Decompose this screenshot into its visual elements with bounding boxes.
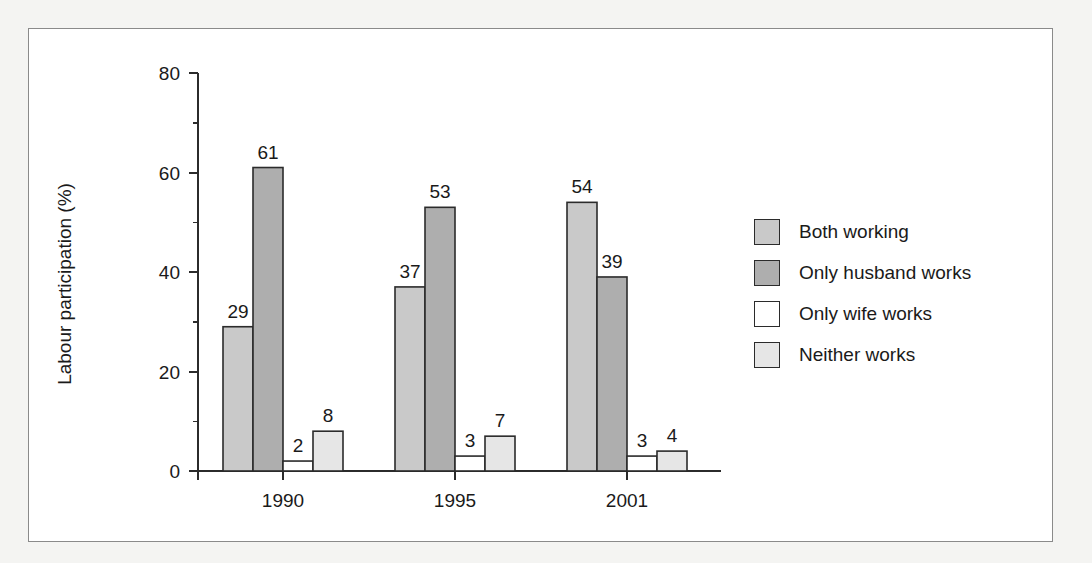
bar [283,461,313,471]
bar [627,456,657,471]
y-tick-labels: 020406080 [159,63,180,482]
bar [657,451,687,471]
bar-value-label: 54 [571,176,593,197]
legend-label: Both working [799,221,909,243]
bar-value-label: 3 [637,430,648,451]
bar-value-label: 7 [495,410,506,431]
x-axis-labels: 199019952001 [262,490,648,511]
bar [313,431,343,471]
chart-frame: Labour participation (%) 020406080 29612… [28,28,1053,542]
bar [485,436,515,471]
legend-item[interactable]: Only wife works [754,293,1044,334]
y-tick-label: 0 [169,461,180,482]
bar [567,202,597,471]
x-axis-label: 2001 [606,490,648,511]
legend-item[interactable]: Neither works [754,334,1044,375]
y-tick-label: 40 [159,262,180,283]
bar-value-label: 37 [399,261,420,282]
bar [223,327,253,471]
bar-value-label: 2 [293,435,304,456]
bar-value-label: 53 [429,181,450,202]
legend-item[interactable]: Only husband works [754,252,1044,293]
bar-value-label: 39 [601,251,622,272]
legend-swatch-icon [754,219,780,245]
bar-chart: Labour participation (%) 020406080 29612… [29,29,1054,543]
bar [455,456,485,471]
legend-item[interactable]: Both working [754,211,1044,252]
legend-label: Only wife works [799,303,932,325]
bar-value-label: 29 [227,301,248,322]
x-axis-label: 1995 [434,490,476,511]
legend-swatch-icon [754,342,780,368]
bar-value-label: 8 [323,405,334,426]
y-tick-label: 60 [159,163,180,184]
bar [425,207,455,471]
scanned-page: Labour participation (%) 020406080 29612… [0,0,1092,563]
bar [597,277,627,471]
y-axis-ticks [189,73,198,471]
bar-group [223,168,687,471]
x-axis-label: 1990 [262,490,304,511]
bar-value-label: 61 [257,142,278,163]
y-tick-label: 80 [159,63,180,84]
bar-value-label: 4 [667,425,678,446]
bar [253,168,283,471]
legend-swatch-icon [754,260,780,286]
y-tick-label: 20 [159,362,180,383]
y-axis-title: Labour participation (%) [54,183,75,385]
legend-swatch-icon [754,301,780,327]
bar-value-label: 3 [465,430,476,451]
legend-label: Only husband works [799,262,971,284]
chart-legend: Both workingOnly husband worksOnly wife … [754,211,1044,375]
bar [395,287,425,471]
legend-label: Neither works [799,344,915,366]
x-axis-ticks [198,471,627,480]
